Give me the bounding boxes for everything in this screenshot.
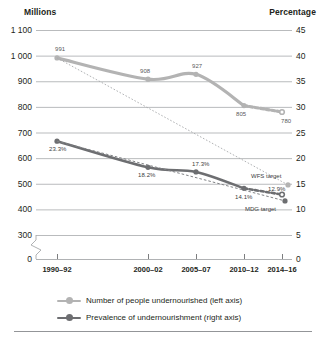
left-axis-tick: 600: [0, 154, 32, 163]
footer-divider: [14, 331, 312, 332]
left-axis-tick: 500: [0, 180, 32, 189]
left-axis-tick: 1 000: [0, 52, 32, 61]
x-axis-tick: 1990–92: [27, 266, 87, 274]
legend-item-number-undernourished: Number of people undernourished (left ax…: [0, 292, 326, 309]
right-axis-tick: 40: [296, 52, 322, 61]
left-axis-tick: 1 100: [0, 26, 32, 35]
right-axis-tick: 15: [296, 180, 322, 189]
right-axis-tick: 25: [296, 129, 322, 138]
legend-label: Number of people undernourished (left ax…: [86, 297, 242, 305]
data-point-label: 991: [55, 46, 65, 52]
data-point-label: 908: [140, 68, 150, 74]
right-axis-tick: 0: [296, 255, 322, 264]
left-axis-tick: 800: [0, 103, 32, 112]
data-point-label: 17.3%: [192, 161, 210, 167]
x-axis: [31, 235, 292, 260]
left-axis-tick: 400: [0, 205, 32, 214]
right-axis-tick: 35: [296, 77, 322, 86]
data-point-label: 805: [236, 111, 246, 117]
right-axis-tick: 30: [296, 103, 322, 112]
left-axis-tick: 0: [0, 255, 32, 264]
data-point-label: 780: [281, 118, 291, 124]
data-point-label: 927: [192, 63, 202, 69]
undernourishment-chart: Millions Percentage 1 1001 0009008007006…: [0, 0, 326, 338]
wfs-target-label: WFS target: [251, 173, 281, 179]
left-axis-tick: 300: [0, 231, 32, 240]
data-point-label: 14.1%: [235, 194, 253, 200]
chart-canvas: [0, 0, 326, 338]
legend-marker-line-icon: [57, 296, 81, 305]
x-axis-tick: 2014–16: [252, 266, 312, 274]
right-axis-tick: 10: [296, 205, 322, 214]
chart-legend: Number of people undernourished (left ax…: [0, 292, 326, 326]
legend-item-prevalence-undernourishment: Prevalence of undernourishment (right ax…: [0, 309, 326, 326]
data-point-label: 12.9%: [268, 186, 286, 192]
data-point-label: 23.3%: [49, 146, 67, 152]
left-axis-tick: 700: [0, 129, 32, 138]
data-point-label: 18.2%: [138, 172, 156, 178]
legend-marker-line-icon: [57, 313, 81, 322]
right-axis-tick: 5: [296, 231, 322, 240]
left-axis-tick: 900: [0, 77, 32, 86]
right-axis-tick: 45: [296, 26, 322, 35]
legend-label: Prevalence of undernourishment (right ax…: [86, 314, 241, 322]
mdg-target-label: MDG target: [245, 206, 276, 212]
data-series: [54, 55, 290, 203]
right-axis-tick: 20: [296, 154, 322, 163]
